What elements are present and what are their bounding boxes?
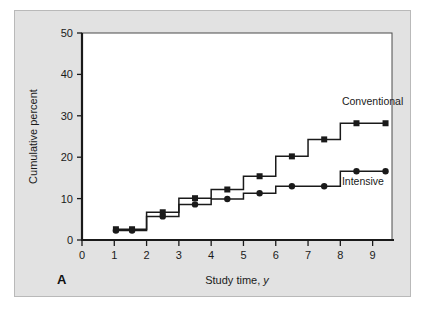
y-axis-tick-label: 10 [61, 193, 73, 205]
marker-square-conventional [257, 173, 263, 179]
figure-screenshot: 01020304050 0123456789 ConventionalInten… [0, 0, 425, 311]
marker-circle-intensive [113, 227, 119, 233]
series-label-conventional: Conventional [342, 95, 403, 107]
plot-area-background [82, 33, 392, 240]
marker-square-conventional [321, 136, 327, 142]
x-axis-tick-label: 9 [370, 249, 376, 261]
figure-panel: 01020304050 0123456789 ConventionalInten… [14, 10, 411, 297]
marker-square-conventional [192, 195, 198, 201]
x-axis-tick-label: 4 [208, 249, 214, 261]
x-axis-tick-label: 8 [337, 249, 343, 261]
marker-circle-intensive [321, 183, 327, 189]
marker-square-conventional [224, 186, 230, 192]
y-axis-tick-label: 50 [61, 27, 73, 39]
series-label-intensive: Intensive [342, 175, 384, 187]
x-axis-tick-label: 2 [144, 249, 150, 261]
x-axis-tick-label: 6 [273, 249, 279, 261]
marker-circle-intensive [256, 190, 262, 196]
marker-square-conventional [383, 120, 389, 126]
panel-letter: A [57, 272, 67, 287]
y-axis: 01020304050 [61, 27, 82, 246]
y-axis-tick-label: 30 [61, 110, 73, 122]
x-axis-tick-label: 3 [176, 249, 182, 261]
marker-circle-intensive [353, 168, 359, 174]
y-axis-title: Cumulative percent [27, 89, 39, 184]
x-axis-tick-label: 7 [305, 249, 311, 261]
marker-circle-intensive [160, 213, 166, 219]
x-axis: 0123456789 [79, 240, 376, 261]
marker-circle-intensive [129, 227, 135, 233]
marker-circle-intensive [192, 201, 198, 207]
x-axis-title-italic: y [262, 274, 270, 286]
x-axis-title-plain: Study time, [205, 274, 263, 286]
x-axis-tick-label: 0 [79, 249, 85, 261]
y-axis-tick-label: 40 [61, 68, 73, 80]
marker-circle-intensive [289, 183, 295, 189]
marker-square-conventional [289, 153, 295, 159]
marker-circle-intensive [224, 196, 230, 202]
x-axis-tick-label: 1 [111, 249, 117, 261]
marker-circle-intensive [382, 168, 388, 174]
marker-square-conventional [353, 120, 359, 126]
y-axis-tick-label: 20 [61, 151, 73, 163]
x-axis-title: Study time, y [205, 274, 270, 286]
plot-frame [81, 33, 394, 240]
y-axis-tick-label: 0 [67, 234, 73, 246]
x-axis-tick-label: 5 [240, 249, 246, 261]
cumulative-incidence-chart: 01020304050 0123456789 ConventionalInten… [15, 11, 410, 296]
